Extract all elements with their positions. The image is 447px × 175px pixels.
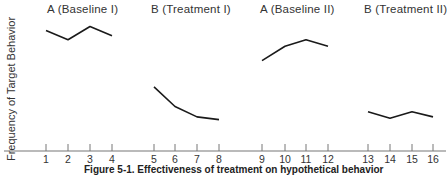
series-line-3 — [262, 40, 328, 61]
series-line-4 — [368, 112, 433, 119]
x-tick-label: 16 — [423, 153, 443, 165]
series-line-2 — [154, 87, 219, 120]
data-series — [46, 27, 433, 120]
series-line-1 — [46, 27, 112, 40]
x-axis-ticks — [46, 144, 433, 151]
x-tick-label: 15 — [402, 153, 422, 165]
x-tick-label: 2 — [58, 153, 78, 165]
figure-caption: Figure 5-1. Effectiveness of treatment o… — [84, 164, 384, 175]
x-tick-label: 1 — [36, 153, 56, 165]
